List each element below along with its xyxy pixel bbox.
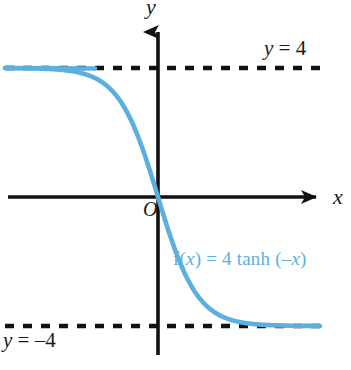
x-axis-label: x — [333, 186, 343, 208]
graph-figure: y x O y = 4 y = –4 f(x) = 4 tanh (–x) — [0, 0, 351, 370]
y-axis-label: y — [146, 0, 156, 18]
function-label-arg1: x — [186, 248, 195, 269]
function-label-fn: f( — [173, 248, 186, 269]
asymptote-bottom-var: y — [3, 328, 12, 352]
function-label: f(x) = 4 tanh (–x) — [173, 249, 307, 268]
origin-label: O — [143, 199, 157, 219]
function-label-mid: ) = 4 tanh (– — [195, 248, 292, 269]
asymptote-bottom-label: y = –4 — [3, 330, 56, 351]
asymptote-top-label: y = 4 — [264, 38, 306, 59]
asymptote-top-var: y — [264, 36, 273, 60]
function-curve-top-asymptote-overlap — [5, 68, 95, 69]
asymptote-top-value: = 4 — [273, 36, 306, 60]
function-label-arg2: x — [291, 248, 300, 269]
function-label-text: f(x) = 4 tanh (–x) — [173, 248, 307, 269]
function-label-close: ) — [300, 248, 307, 269]
asymptote-bottom-value: = –4 — [12, 328, 55, 352]
